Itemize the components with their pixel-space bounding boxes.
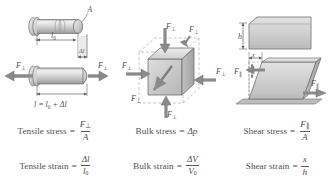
label-force-left-bulk: F⊥: [121, 61, 132, 71]
tensile-strain-numerator: Δl: [80, 155, 92, 165]
dimension-x: x: [249, 51, 262, 64]
tensile-stress-denominator: A: [81, 131, 91, 142]
dimension-l0: l0: [35, 31, 78, 57]
label-force-left: F⊥: [15, 61, 26, 71]
dimension-height: h: [238, 23, 247, 49]
bulk-stress-formula: Bulk stress = Δp: [111, 120, 222, 142]
tensile-stress-numerator: F⊥: [78, 120, 94, 131]
label-force-right-bulk: F⊥: [215, 67, 226, 77]
bulk-stress-value: Δp: [187, 126, 197, 136]
shear-diagram: h x: [233, 17, 326, 104]
shear-stress-denominator: A: [300, 131, 310, 142]
shear-strain-label: Shear strain: [246, 161, 290, 171]
bulk-strain-label: Bulk strain: [133, 161, 174, 171]
equals-sign: =: [71, 161, 76, 171]
stress-strain-figure: A l0 Δl: [0, 0, 333, 190]
support-surface: [236, 99, 322, 104]
tensile-strain-denominator: l0: [81, 165, 90, 177]
bulk-strain-denominator: V0: [186, 165, 198, 177]
label-force-front: F⊥: [130, 94, 141, 104]
equals-sign: =: [70, 126, 75, 136]
label-force-shear-right: F∥: [310, 79, 319, 90]
label-force-back: F⊥: [188, 25, 199, 35]
tensile-strain-formula: Tensile strain = Δl l0: [0, 155, 111, 177]
shear-stress-formula: Shear stress = F∥ A: [222, 120, 333, 142]
equals-sign: =: [177, 161, 182, 171]
bulk-strain-formula: Bulk strain = ΔV V0: [111, 155, 222, 177]
dimension-total-length: l = l0 + Δl: [34, 84, 87, 110]
dimension-delta-l: Δl: [78, 34, 87, 58]
label-force-shear-left: F∥: [233, 67, 242, 78]
equals-sign: =: [292, 161, 297, 171]
shear-stress-label: Shear stress: [243, 126, 287, 136]
label-force-top: F⊥: [165, 22, 176, 32]
stress-formula-row: Tensile stress = F⊥ A Bulk stress = Δp S…: [0, 120, 333, 142]
relaxed-cylinder: A: [29, 5, 93, 36]
tensile-stress-formula: Tensile stress = F⊥ A: [0, 120, 111, 142]
shear-strain-formula: Shear strain = x h: [222, 155, 333, 177]
label-force-right: F⊥: [97, 61, 108, 71]
shear-stress-numerator: F∥: [298, 120, 311, 131]
label-x: x: [251, 51, 255, 58]
label-total-length: l = l0 + Δl: [34, 100, 68, 110]
shear-strain-denominator: h: [301, 166, 310, 177]
shear-strain-numerator: x: [301, 155, 309, 165]
bulk-diagram: F⊥ F⊥ F⊥ F⊥ F⊥ F⊥: [121, 22, 226, 120]
label-height: h: [238, 32, 242, 41]
bulk-strain-numerator: ΔV: [185, 155, 200, 165]
stretched-cylinder: [29, 66, 87, 86]
equals-sign: =: [179, 126, 184, 136]
label-force-bottom: F⊥: [166, 110, 177, 120]
undeformed-block: [249, 17, 311, 49]
tensile-strain-label: Tensile strain: [19, 161, 68, 171]
bulk-stress-label: Bulk stress: [136, 126, 177, 136]
tensile-stress-label: Tensile stress: [18, 126, 67, 136]
tensile-diagram: A l0 Δl: [5, 5, 108, 110]
strain-formula-row: Tensile strain = Δl l0 Bulk strain = ΔV …: [0, 155, 333, 177]
label-area: A: [87, 5, 93, 14]
label-delta-l: Δl: [78, 47, 85, 54]
equals-sign: =: [290, 126, 295, 136]
compressed-cube: [148, 48, 194, 95]
